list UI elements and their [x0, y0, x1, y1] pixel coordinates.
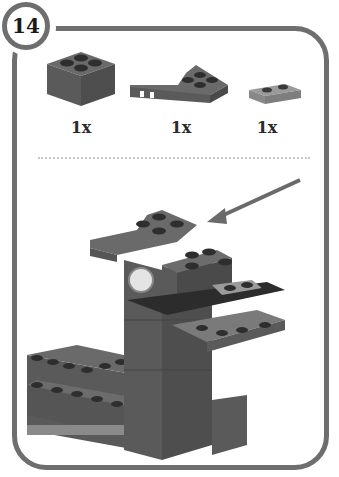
step-number-badge: 14: [2, 2, 50, 50]
part-wedge-plate-icon: [130, 65, 228, 105]
assembly-illustration: [17, 170, 322, 465]
part-quantity: 1x: [71, 118, 92, 137]
part-plate-1x2-icon: [249, 80, 301, 106]
dotted-divider: [38, 157, 310, 159]
part-quantity: 1x: [257, 118, 278, 137]
part-quantity: 1x: [171, 118, 192, 137]
step-number: 14: [12, 14, 40, 38]
part-brick-2x2-icon: [47, 50, 115, 108]
